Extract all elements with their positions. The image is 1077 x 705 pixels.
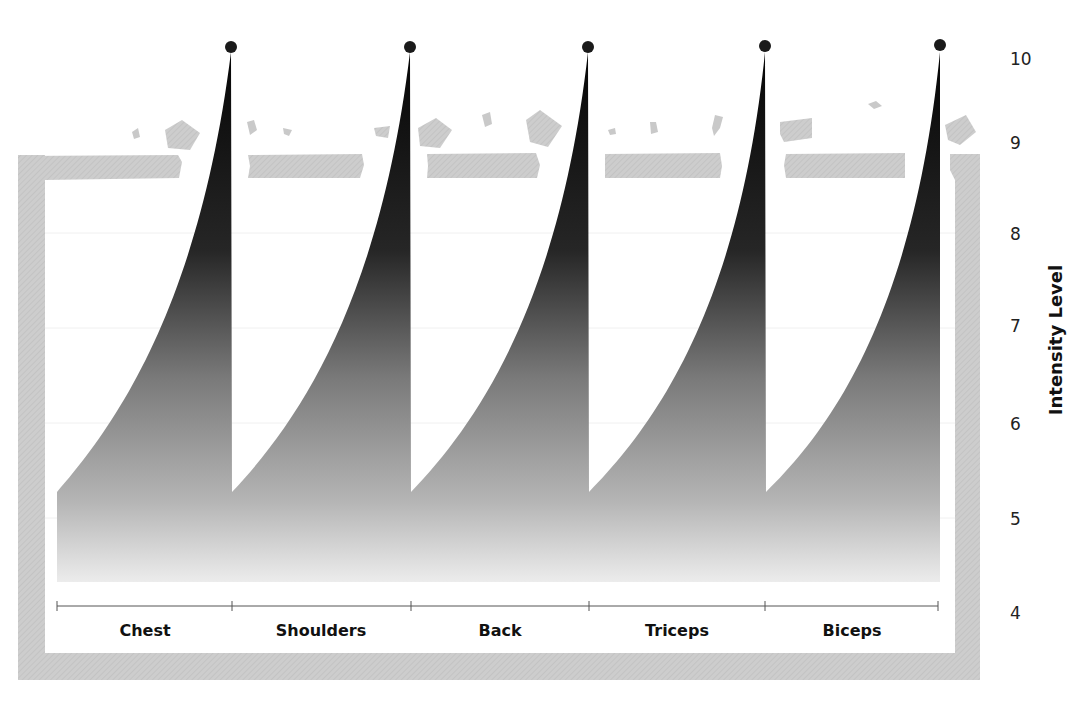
category-label: Chest xyxy=(119,621,171,640)
y-tick-label: 8 xyxy=(1010,224,1021,244)
chart: Chest Shoulders Back Triceps Biceps 10 9… xyxy=(0,0,1077,705)
y-axis-labels: 10 9 8 7 6 5 4 xyxy=(1010,49,1032,623)
marker-triceps xyxy=(759,40,771,52)
y-tick-label: 4 xyxy=(1010,603,1021,623)
y-axis-title: Intensity Level xyxy=(1045,265,1066,415)
marker-back xyxy=(582,41,594,53)
category-label: Back xyxy=(478,621,521,640)
category-label: Shoulders xyxy=(276,621,367,640)
y-tick-label: 6 xyxy=(1010,414,1021,434)
y-tick-label: 5 xyxy=(1010,509,1021,529)
category-label: Triceps xyxy=(645,621,709,640)
y-tick-label: 7 xyxy=(1010,316,1021,336)
y-tick-label: 10 xyxy=(1010,49,1032,69)
category-label: Biceps xyxy=(823,621,882,640)
peak-markers xyxy=(225,39,946,53)
x-axis-labels: Chest Shoulders Back Triceps Biceps xyxy=(119,621,881,640)
marker-biceps xyxy=(934,39,946,51)
marker-shoulders xyxy=(404,41,416,53)
y-tick-label: 9 xyxy=(1010,133,1021,153)
marker-chest xyxy=(225,41,237,53)
x-axis xyxy=(57,601,938,611)
